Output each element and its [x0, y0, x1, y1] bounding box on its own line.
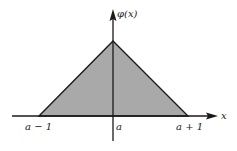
y-axis-label: φ(x) [117, 8, 138, 19]
hat-function-diagram: φ(x) x a − 1 a a + 1 [0, 0, 237, 151]
tick-label-a-plus-1: a + 1 [176, 121, 203, 132]
tick-label-a: a [116, 121, 122, 132]
tick-label-a-minus-1: a − 1 [25, 121, 52, 132]
x-axis-label: x [221, 110, 227, 121]
